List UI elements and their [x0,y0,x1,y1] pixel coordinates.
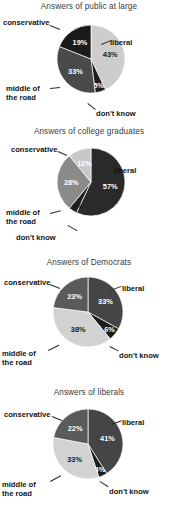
label-middle-line2: the road [2,489,32,498]
slice-percent-label: 41% [100,434,115,443]
pie-chart-public-at-large: Answers of public at large 43%5%33%19% l… [0,0,178,125]
leader-line-dont-know [68,225,78,231]
pie-graphic: 41%4%33%22% [52,408,124,480]
pie-svg: 43%5%33%19% [56,24,126,94]
label-middle-of-the-road: middle of the road [2,349,50,368]
pie-svg: 33%6%38%23% [52,276,124,348]
slice-percent-label: 38% [71,325,86,334]
chart-title: Answers of liberals [0,388,178,397]
label-liberal: liberal [122,284,144,293]
label-middle-of-the-road: middle of the road [2,480,50,499]
chart-title: Answers of college graduates [0,127,178,136]
slice-percent-label: 19% [73,38,88,47]
leader-line-dont-know [87,103,95,110]
slice-percent-label: 11% [77,159,92,168]
label-dont-know: don't know [119,351,159,360]
pie-chart-liberals: Answers of liberals 41%4%33%22% liberal … [0,380,178,519]
pie-graphic: 43%5%33%19% [56,24,126,94]
slice-percent-label: 33% [68,67,83,76]
slice-percent-label: 57% [103,182,118,191]
label-conservative: conservative [11,145,57,154]
pie-chart-democrats: Answers of Democrats 33%6%38%23% liberal… [0,250,178,380]
label-middle-line2: the road [6,217,36,226]
label-middle-line2: the road [2,358,32,367]
pie-svg: 57%4%28%11% [56,147,126,217]
pie-graphic: 33%6%38%23% [52,276,124,348]
slice-percent-label: 33% [98,297,113,306]
label-liberal: liberal [114,166,136,175]
label-middle-line1: middle of [2,349,36,358]
slice-percent-label: 28% [64,178,79,187]
label-middle-line1: middle of [6,84,40,93]
label-middle-line2: the road [6,93,36,102]
leader-line-dont-know [99,481,108,487]
chart-title: Answers of Democrats [0,258,178,267]
label-liberal: liberal [110,38,132,47]
chart-title: Answers of public at large [0,2,178,11]
label-liberal: liberal [122,418,144,427]
slice-percent-label: 43% [103,50,118,59]
label-conservative: conservative [4,410,50,419]
label-dont-know: don't know [96,109,136,118]
pie-svg: 41%4%33%22% [52,408,124,480]
slice-percent-label: 23% [67,292,82,301]
label-middle-line1: middle of [6,208,40,217]
slice-percent-label: 22% [68,424,83,433]
slice-percent-label: 33% [67,455,82,464]
label-dont-know: don't know [16,233,56,242]
label-conservative: conservative [3,18,49,27]
label-middle-of-the-road: middle of the road [6,208,54,227]
label-conservative: conservative [4,278,50,287]
label-middle-line1: middle of [2,480,36,489]
pie-graphic: 57%4%28%11% [56,147,126,217]
label-dont-know: don't know [109,487,149,496]
label-middle-of-the-road: middle of the road [6,84,54,103]
pie-chart-college-graduates: Answers of college graduates 57%4%28%11%… [0,125,178,250]
